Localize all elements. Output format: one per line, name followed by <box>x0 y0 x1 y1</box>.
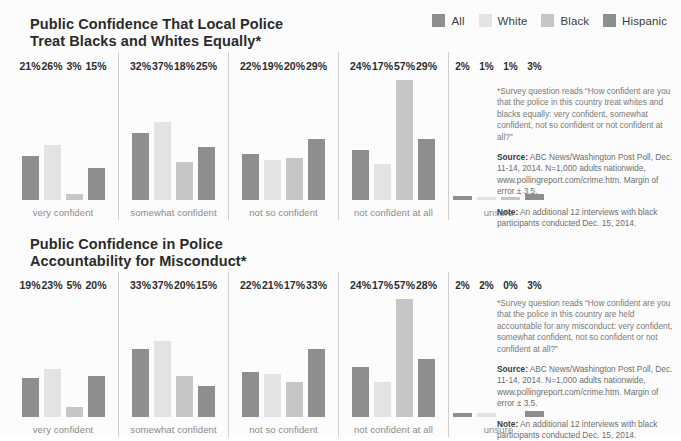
bar-value-label: 0% <box>503 280 517 291</box>
additional-note-2: Note: An additional 12 interviews with b… <box>497 419 673 441</box>
bar-hispanic-very-confident: 15% <box>88 74 105 200</box>
bar-white-unsure: 2% <box>477 293 496 417</box>
bar-value-label: 19% <box>262 60 283 72</box>
bar-chart-2: 19%23%5%20%very confident33%37%20%15%som… <box>8 272 488 437</box>
bar-black-somewhat-confident: 18% <box>176 74 193 200</box>
bar-hispanic-somewhat-confident: 15% <box>198 293 215 417</box>
bar-group-not-so-confident: 22%19%20%29%not so confident <box>228 52 338 220</box>
group-axis-label: not so confident <box>229 207 338 218</box>
group-axis-label: not confident at all <box>339 424 448 435</box>
side-notes-1: *Survey question reads “How confident ar… <box>497 86 673 229</box>
bar-rect: 17% <box>286 382 303 417</box>
bar-hispanic-not-so-confident: 29% <box>308 74 325 200</box>
bar-rect: 17% <box>374 382 391 417</box>
bar-value-label: 29% <box>416 60 437 72</box>
bar-value-label: 24% <box>350 279 371 291</box>
bar-value-label: 37% <box>152 279 173 291</box>
bar-rect: 1% <box>477 197 496 200</box>
bar-rect: 29% <box>418 139 435 200</box>
source-label-1: Source: <box>497 152 528 162</box>
bar-all-very-confident: 19% <box>22 293 39 417</box>
bar-rect: 23% <box>44 369 61 417</box>
bars-container: 22%21%17%33% <box>229 293 338 417</box>
bar-black-very-confident: 5% <box>66 293 83 417</box>
note-text-1: An additional 12 interviews with black p… <box>497 207 657 228</box>
bar-rect: 29% <box>308 139 325 200</box>
bar-value-label: 19% <box>19 279 40 291</box>
bar-rect: 15% <box>88 168 105 200</box>
bar-value-label: 37% <box>152 60 173 72</box>
bar-rect: 21% <box>22 156 39 200</box>
bar-black-somewhat-confident: 20% <box>176 293 193 417</box>
bar-value-label: 28% <box>416 279 437 291</box>
bar-value-label: 2% <box>479 280 493 291</box>
bar-all-not-so-confident: 22% <box>242 293 259 417</box>
bar-value-label: 23% <box>41 279 62 291</box>
bar-hispanic-somewhat-confident: 25% <box>198 74 215 200</box>
bar-value-label: 15% <box>196 279 217 291</box>
survey-question-note-2: *Survey question reads “How confident ar… <box>497 298 673 355</box>
bar-value-label: 20% <box>174 279 195 291</box>
bars-container: 24%17%57%29% <box>339 74 448 200</box>
bar-value-label: 25% <box>196 60 217 72</box>
bar-value-label: 3% <box>527 61 541 72</box>
bar-black-very-confident: 3% <box>66 74 83 200</box>
bar-value-label: 15% <box>85 60 106 72</box>
bar-rect: 20% <box>88 376 105 417</box>
bar-rect: 2% <box>453 413 472 417</box>
bar-group-very-confident: 19%23%5%20%very confident <box>8 272 118 437</box>
bar-rect: 2% <box>477 413 496 417</box>
bars-container: 32%37%18%25% <box>119 74 228 200</box>
bar-group-somewhat-confident: 33%37%20%15%somewhat confident <box>118 272 228 437</box>
bar-value-label: 21% <box>262 279 283 291</box>
bar-hispanic-not-confident-at-all: 29% <box>418 74 435 200</box>
bar-rect: 24% <box>352 150 369 200</box>
bar-value-label: 20% <box>85 279 106 291</box>
bars-container: 19%23%5%20% <box>8 293 118 417</box>
group-axis-label: not confident at all <box>339 207 448 218</box>
bar-black-not-confident-at-all: 57% <box>396 293 413 417</box>
bar-value-label: 22% <box>240 279 261 291</box>
bar-all-not-so-confident: 22% <box>242 74 259 200</box>
bar-rect: 18% <box>176 162 193 200</box>
bar-value-label: 17% <box>284 279 305 291</box>
bar-rect: 26% <box>44 145 61 200</box>
bars-container: 21%26%3%15% <box>8 74 118 200</box>
bar-rect: 25% <box>198 147 215 200</box>
bar-white-not-so-confident: 21% <box>264 293 281 417</box>
bar-rect: 5% <box>66 407 83 417</box>
bar-rect: 37% <box>154 341 171 417</box>
bar-value-label: 24% <box>350 60 371 72</box>
bar-rect: 15% <box>198 386 215 417</box>
bar-white-not-confident-at-all: 17% <box>374 293 391 417</box>
bar-rect: 19% <box>22 378 39 417</box>
bar-group-very-confident: 21%26%3%15%very confident <box>8 52 118 220</box>
bars-container: 22%19%20%29% <box>229 74 338 200</box>
bar-hispanic-not-so-confident: 33% <box>308 293 325 417</box>
source-note-2: Source: ABC News/Washington Post Poll, D… <box>497 364 673 410</box>
bar-rect: 20% <box>286 158 303 200</box>
bar-white-very-confident: 23% <box>44 293 61 417</box>
bar-rect: 17% <box>374 164 391 200</box>
chart-panel-2: Public Confidence in Police Accountabili… <box>0 228 681 437</box>
source-label-2: Source: <box>497 364 528 374</box>
bar-value-label: 29% <box>306 60 327 72</box>
bar-chart-1: 21%26%3%15%very confident32%37%18%25%som… <box>8 52 488 220</box>
bar-hispanic-very-confident: 20% <box>88 293 105 417</box>
bar-rect: 21% <box>264 374 281 417</box>
bar-rect: 3% <box>66 194 83 200</box>
bar-rect: 22% <box>242 372 259 417</box>
bar-value-label: 17% <box>372 279 393 291</box>
bar-group-not-confident-at-all: 24%17%57%28%not confident at all <box>338 272 448 437</box>
bar-value-label: 2% <box>455 61 469 72</box>
bar-value-label: 21% <box>19 60 40 72</box>
bar-rect: 33% <box>132 349 149 417</box>
bar-rect: 22% <box>242 154 259 200</box>
bar-value-label: 57% <box>394 60 415 72</box>
bar-rect: 2% <box>453 196 472 200</box>
note-text-2: An additional 12 interviews with black p… <box>497 419 657 440</box>
bar-black-not-so-confident: 20% <box>286 74 303 200</box>
bar-hispanic-not-confident-at-all: 28% <box>418 293 435 417</box>
bar-value-label: 1% <box>503 61 517 72</box>
